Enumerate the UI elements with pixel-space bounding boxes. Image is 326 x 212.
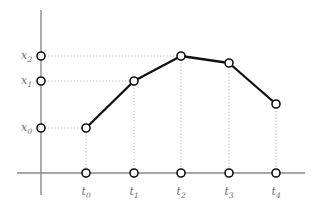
- y-tick-marker-x0[interactable]: [37, 124, 45, 132]
- y-tick-marker-x2[interactable]: [37, 52, 45, 60]
- y-axis-label-x0-sub: 0: [28, 127, 33, 136]
- x-tick-marker-t0[interactable]: [82, 169, 90, 177]
- data-point-t4[interactable]: [272, 100, 280, 108]
- y-axis-label-x0-base: x: [21, 121, 27, 134]
- y-axis-label-x0: x0: [6, 122, 32, 133]
- x-axis-label-t0-sub: 0: [86, 191, 91, 200]
- y-axis-label-x2-base: x: [21, 49, 27, 62]
- y-axis-label-x2: x2: [6, 50, 32, 61]
- y-axis-label-x1-sub: 1: [28, 80, 33, 89]
- x-axis-label-t1: t1: [119, 186, 149, 197]
- axes-group: [17, 10, 305, 195]
- data-point-t2[interactable]: [177, 52, 185, 60]
- y-tick-marker-x1[interactable]: [37, 77, 45, 85]
- x-tick-marker-t1[interactable]: [130, 169, 138, 177]
- data-point-t1[interactable]: [130, 77, 138, 85]
- x-tick-marker-t2[interactable]: [177, 169, 185, 177]
- x-axis-label-t4-sub: 4: [276, 191, 281, 200]
- line-chart-figure: x2 x1 x0 t0 t1 t2 t3 t4: [0, 0, 326, 212]
- x-tick-marker-t4[interactable]: [272, 169, 280, 177]
- vertical-leader-lines-group: [86, 60, 276, 169]
- x-axis-label-t4: t4: [261, 186, 291, 197]
- x-axis-label-t0: t0: [71, 186, 101, 197]
- x-axis-label-t3: t3: [214, 186, 244, 197]
- x-axis-label-t2: t2: [166, 186, 196, 197]
- y-axis-label-x1: x1: [6, 75, 32, 86]
- x-axis-label-t2-sub: 2: [181, 191, 186, 200]
- plot-canvas: [0, 0, 326, 212]
- data-point-t3[interactable]: [225, 59, 233, 67]
- x-axis-label-t1-sub: 1: [134, 191, 139, 200]
- data-point-t0[interactable]: [82, 124, 90, 132]
- x-tick-marker-t3[interactable]: [225, 169, 233, 177]
- y-axis-label-x1-base: x: [21, 74, 27, 87]
- x-axis-label-t3-sub: 3: [229, 191, 234, 200]
- horizontal-leader-lines-group: [45, 56, 177, 128]
- y-axis-label-x2-sub: 2: [28, 55, 33, 64]
